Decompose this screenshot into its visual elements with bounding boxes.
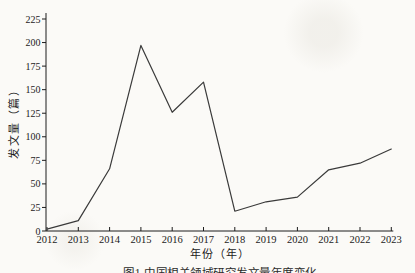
x-tick-label: 2016 (162, 234, 183, 245)
line-chart-svg: 0255075100125150175200225201220132014201… (0, 0, 415, 273)
x-tick-label: 2020 (287, 234, 308, 245)
y-tick-label: 200 (26, 37, 41, 48)
x-tick-label: 2022 (350, 234, 371, 245)
y-tick-label: 25 (31, 202, 41, 213)
x-tick-label: 2012 (37, 234, 58, 245)
x-tick-label: 2021 (318, 234, 339, 245)
x-tick-label: 2015 (130, 234, 151, 245)
x-tick-label: 2018 (224, 234, 245, 245)
y-tick-label: 100 (26, 131, 41, 142)
x-tick-label: 2023 (381, 234, 402, 245)
x-tick-label: 2017 (193, 234, 214, 245)
x-tick-label: 2013 (68, 234, 89, 245)
data-polyline (47, 45, 391, 229)
figure-caption: 图1 中国相关领域研究发文量年度变化 (35, 264, 405, 273)
y-tick-label: 225 (26, 14, 41, 25)
y-tick-label: 50 (31, 178, 41, 189)
y-tick-label: 175 (26, 61, 41, 72)
y-tick-label: 125 (26, 108, 41, 119)
x-tick-label: 2014 (99, 234, 121, 245)
y-tick-label: 75 (31, 155, 41, 166)
y-tick-label: 150 (26, 84, 41, 95)
x-axis-title: 年份（年） (47, 245, 392, 261)
x-tick-label: 2019 (256, 234, 277, 245)
y-axis-title: 发文量（篇） (5, 84, 21, 159)
